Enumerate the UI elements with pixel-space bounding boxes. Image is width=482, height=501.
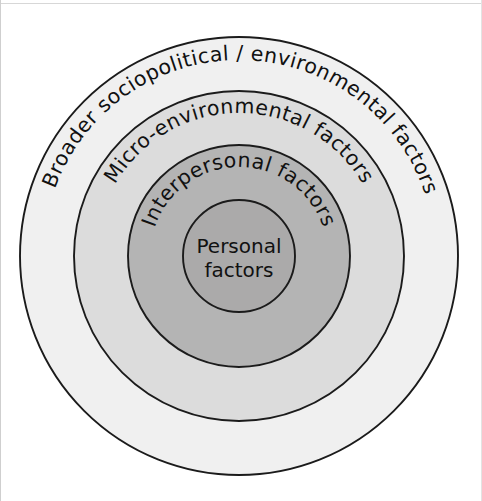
core-label-line-2: factors [204,258,273,282]
concentric-circles-diagram: Broader sociopolitical / environmental f… [0,0,482,501]
figure-container: Broader sociopolitical / environmental f… [0,0,482,501]
core-label-line-1: Personal [196,234,281,258]
